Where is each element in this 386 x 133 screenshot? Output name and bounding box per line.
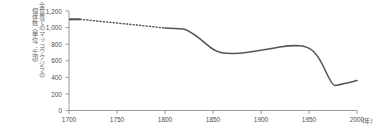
x-tick-label-1850: 1850 bbox=[196, 116, 230, 123]
chart-figure: 全世界でのマッコウクジラの 個体数（単位：千頭） bbox=[0, 0, 386, 133]
x-tick-label-1900: 1900 bbox=[244, 116, 278, 123]
y-tick-label-1000: 1,000 bbox=[36, 24, 62, 31]
y-tick-label-0: 0 bbox=[36, 107, 62, 114]
x-tick-label-1700: 1700 bbox=[52, 116, 86, 123]
y-axis-ticks bbox=[66, 11, 70, 111]
y-tick-label-600: 600 bbox=[36, 57, 62, 64]
y-tick-label-800: 800 bbox=[36, 41, 62, 48]
y-tick-label-1200: 1,200 bbox=[36, 8, 62, 15]
x-axis-unit-note: (年) bbox=[362, 116, 373, 125]
x-tick-label-1800: 1800 bbox=[148, 116, 182, 123]
series-line-solid-observed bbox=[165, 28, 357, 86]
x-tick-label-1750: 1750 bbox=[100, 116, 134, 123]
x-axis-ticks bbox=[69, 111, 357, 115]
series-line-dotted-estimate bbox=[81, 19, 166, 28]
y-tick-label-400: 400 bbox=[36, 74, 62, 81]
y-tick-label-200: 200 bbox=[36, 91, 62, 98]
x-tick-label-1950: 1950 bbox=[292, 116, 326, 123]
